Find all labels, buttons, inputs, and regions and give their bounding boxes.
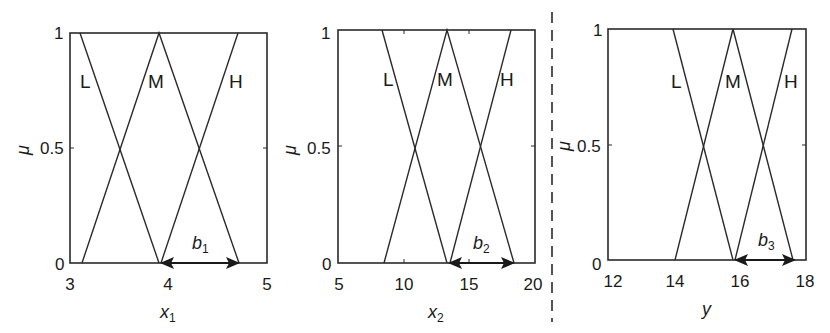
fuzzy-membership-figure: L M H b1 1 0.5 0 μ 3 4 5 x1 L M H [0,0,830,333]
x-tick-label: 15 [460,275,479,294]
x-tick-label: 5 [262,275,271,294]
set-label-H: H [500,69,514,90]
mf-high [450,30,511,263]
plot-frame [338,30,535,263]
set-label-H: H [784,71,798,92]
x-tick-label: 10 [395,275,414,294]
b2-label: b2 [473,233,490,256]
y-tick-label-0: 0 [592,255,601,274]
set-label-L: L [80,71,91,92]
set-label-M: M [148,71,164,92]
mf-medium [384,30,514,263]
mf-medium [82,33,239,263]
x-tick-label: 20 [524,275,543,294]
set-label-L: L [383,69,394,90]
x-tick-label: 5 [334,275,343,294]
y-tick-label-1: 1 [54,24,63,43]
y-tick-label-0.5: 0.5 [577,137,601,156]
y-axis-label: μ [13,145,33,156]
plot-frame [608,29,806,260]
set-label-H: H [229,71,243,92]
x-tick-label: 18 [796,272,815,291]
panel-x1: L M H b1 1 0.5 0 μ 3 4 5 x1 [13,24,272,325]
x-tick-label: 12 [604,272,623,291]
y-tick-label-0: 0 [322,255,331,274]
x-tick-label: 4 [163,275,172,294]
set-label-L: L [671,71,682,92]
x-tick-label: 3 [65,275,74,294]
x-axis-label: x2 [427,302,444,325]
b1-label: b1 [192,233,209,256]
mf-medium [675,29,793,260]
x-axis-label: x1 [159,302,176,325]
y-tick-label-0: 0 [55,255,64,274]
set-label-M: M [437,69,453,90]
y-tick-label-0.5: 0.5 [40,139,64,158]
y-axis-label: μ [554,141,574,152]
y-tick-label-1: 1 [593,21,602,40]
plot-frame [70,33,267,263]
panel-x2: L M H b2 1 0.5 0 μ 5 10 15 20 x2 [280,24,542,325]
y-tick-label-1: 1 [321,24,330,43]
b3-label: b3 [758,230,775,253]
panel-y: L M H b3 1 0.5 0 μ 12 14 16 18 y [554,21,814,319]
y-tick-label-0.5: 0.5 [307,139,331,158]
x-tick-label: 14 [666,272,685,291]
x-tick-label: 16 [731,272,750,291]
set-label-M: M [725,71,741,92]
x-axis-label: y [700,299,712,319]
y-axis-label: μ [280,145,300,156]
